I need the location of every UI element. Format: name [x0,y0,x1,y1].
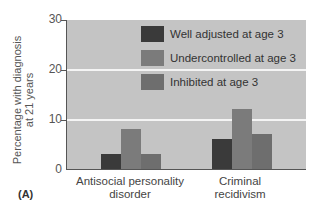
gridline-10 [67,119,306,121]
y-tick-30: 30 [32,12,62,26]
y-tick-20: 20 [32,62,62,76]
y-tick-10: 10 [32,112,62,126]
x-category-label-recidivism: Criminal recidivism [200,175,280,201]
legend-swatch [141,74,164,90]
gridline-20 [67,69,306,71]
bar-recidivism-well-adjusted [212,139,232,169]
legend-swatch [141,50,164,66]
bar-recidivism-inhibited [252,134,272,169]
y-tick-mark [61,20,67,21]
x-label-line: recidivism [200,188,280,201]
bar-antisocial-well-adjusted [101,154,121,169]
x-category-label-antisocial: Antisocial personality disorder [70,175,190,201]
legend-label: Inhibited at age 3 [170,76,258,88]
x-label-line: Criminal [200,175,280,188]
y-axis-label-line-1: Percentage with diagnosis [11,25,23,175]
x-label-line: Antisocial personality [70,175,190,188]
bar-antisocial-inhibited [141,154,161,169]
legend-label: Undercontrolled at age 3 [170,52,296,64]
bar-recidivism-undercontrolled [232,109,252,169]
x-label-line: disorder [70,188,190,201]
bar-antisocial-undercontrolled [121,129,141,169]
panel-label: (A) [18,188,33,200]
legend-item-well-adjusted: Well adjusted at age 3 [141,26,284,42]
y-tick-0: 0 [32,162,62,176]
y-axis-label: Percentage with diagnosis at 21 years [11,25,35,175]
legend-swatch [141,26,164,42]
y-axis-label-line-2: at 21 years [23,25,35,175]
plot-area: Well adjusted at age 3 Undercontrolled a… [66,20,306,170]
legend-item-inhibited: Inhibited at age 3 [141,74,258,90]
legend-item-undercontrolled: Undercontrolled at age 3 [141,50,296,66]
legend-label: Well adjusted at age 3 [170,28,284,40]
